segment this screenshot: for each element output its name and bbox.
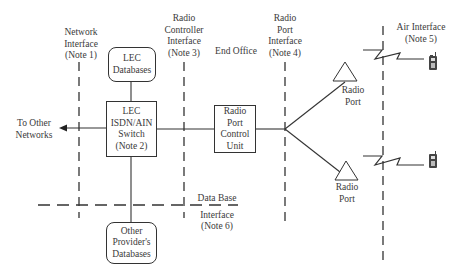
lightning-zigzag-icon	[363, 156, 424, 165]
label-line: Data Base	[192, 193, 242, 205]
label-line: Interface	[192, 210, 242, 222]
label-line: (Note 5)	[386, 34, 456, 46]
radio-port-interface-label: Radio Port Interface (Note 4)	[262, 13, 308, 59]
label-line: Control	[220, 129, 249, 141]
label-line: Unit	[220, 141, 249, 153]
arrow-head-icon	[59, 125, 67, 132]
network-interface-label: Network Interface (Note 1)	[57, 27, 105, 62]
label-line: Port	[220, 118, 249, 130]
radio-controller-interface-label: Radio Controller Interface (Note 3)	[158, 13, 210, 59]
other-provider-databases-node: Other Provider's Databases	[106, 222, 157, 264]
label-line: Radio	[158, 13, 210, 25]
label-line: Interface	[158, 36, 210, 48]
radio-port-bottom-label: Radio Port	[329, 182, 365, 205]
network-architecture-diagram: Network Interface (Note 1) Radio Control…	[0, 0, 460, 280]
label-line: Radio	[220, 106, 249, 118]
label-line: Databases	[112, 249, 151, 261]
label-line: Other	[112, 226, 151, 238]
label-line: Controller	[158, 25, 210, 37]
label-line: Port	[335, 97, 371, 109]
label-line: Interface	[57, 39, 105, 51]
label-line: Databases	[113, 65, 152, 77]
label-line: LEC	[111, 106, 153, 118]
data-base-interface-label: Data Base Interface (Note 6)	[192, 193, 242, 233]
label-line: ISDN/AIN	[111, 118, 153, 130]
radio-port-control-unit-node: Radio Port Control Unit	[214, 105, 256, 153]
lec-databases-node: LEC Databases	[108, 47, 156, 82]
label-line: Interface	[262, 36, 308, 48]
label-line: Switch	[111, 129, 153, 141]
triangle-antenna-icon	[333, 62, 357, 81]
label-line: Network	[57, 27, 105, 39]
label-line: Port	[262, 25, 308, 37]
label-line: Radio	[329, 182, 365, 194]
radio-port-top-label: Radio Port	[335, 85, 371, 108]
label-line: Port	[329, 194, 365, 206]
end-office-label: End Office	[211, 46, 261, 58]
lightning-zigzag-icon	[363, 50, 424, 59]
label-line: (Note 3)	[158, 48, 210, 60]
label-line: Radio	[262, 13, 308, 25]
air-interface-label: Air Interface (Note 5)	[386, 22, 456, 45]
label-line: To Other	[12, 118, 56, 130]
mobile-phone-icon	[429, 52, 437, 70]
label-line: (Note 4)	[262, 48, 308, 60]
mobile-phone-icon	[429, 151, 437, 168]
label-line: (Note 2)	[111, 141, 153, 153]
lec-switch-node: LEC ISDN/AIN Switch (Note 2)	[106, 101, 157, 157]
label-line: Provider's	[112, 237, 151, 249]
label-line: Air Interface	[386, 22, 456, 34]
label-line: (Note 1)	[57, 50, 105, 62]
label-line: Radio	[335, 85, 371, 97]
radio-port-bottom-link	[285, 129, 340, 172]
label-line: (Note 6)	[192, 221, 242, 233]
label-line: Networks	[12, 130, 56, 142]
label-line: LEC	[113, 53, 152, 65]
to-other-networks-label: To Other Networks	[12, 118, 56, 141]
